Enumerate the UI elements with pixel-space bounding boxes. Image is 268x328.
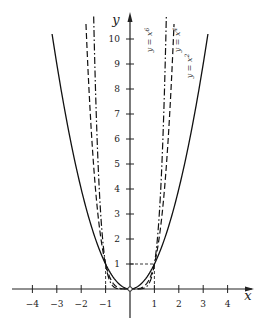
y-tick-label: 10	[109, 34, 121, 44]
x-tick-label: −4	[26, 299, 40, 309]
curve-label: y = x2	[183, 54, 194, 80]
x-tick-label: 2	[176, 299, 182, 309]
x-axis-label: x	[244, 288, 252, 303]
curve-label: y = x4	[171, 28, 182, 54]
x-tick-label: 3	[200, 299, 206, 309]
origin-marker	[128, 287, 132, 291]
y-tick-label: 7	[114, 109, 120, 119]
y-axis-arrow-icon	[128, 12, 133, 22]
x-tick-label: 1	[152, 299, 158, 309]
x-tick-label: −3	[50, 299, 64, 309]
curve-label: y = x6	[143, 28, 154, 54]
y-tick-label: 9	[114, 59, 120, 69]
y-tick-label: 4	[114, 184, 120, 194]
y-tick-label: 2	[114, 234, 120, 244]
y-tick-label: 8	[114, 84, 120, 94]
x-tick-label: −1	[99, 299, 112, 309]
x-tick-label: −2	[75, 299, 88, 309]
y-tick-label: 1	[114, 259, 120, 269]
y-axis-label: y	[111, 12, 120, 27]
x-tick-label: 4	[225, 299, 231, 309]
labels-group: −4−3−2−1123412345678910xyy = x2y = x4y =…	[26, 12, 253, 309]
y-tick-label: 3	[114, 209, 120, 219]
power-functions-chart: −4−3−2−1123412345678910xyy = x2y = x4y =…	[0, 0, 268, 328]
axes-group	[12, 12, 254, 318]
y-tick-label: 6	[114, 134, 120, 144]
y-tick-label: 5	[114, 159, 120, 169]
